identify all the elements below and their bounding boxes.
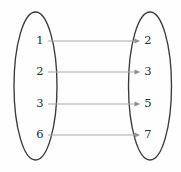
domain-element-1: 1 bbox=[36, 33, 43, 47]
codomain-element-2: 2 bbox=[144, 33, 151, 47]
set-mapping-diagram: 1236 2357 bbox=[0, 0, 181, 172]
codomain-element-7: 7 bbox=[144, 127, 151, 141]
mapping-arrowhead-2-to-3 bbox=[135, 69, 141, 74]
codomain-element-5: 5 bbox=[144, 96, 151, 110]
domain-element-labels: 1236 bbox=[36, 33, 43, 141]
mapping-arrowhead-3-to-5 bbox=[135, 101, 141, 106]
codomain-element-3: 3 bbox=[144, 64, 151, 78]
diagram-canvas: 1236 2357 bbox=[0, 0, 181, 172]
codomain-element-labels: 2357 bbox=[144, 33, 151, 141]
mapping-arrowhead-6-to-7 bbox=[135, 132, 141, 137]
domain-element-6: 6 bbox=[36, 127, 43, 141]
mapping-arrowhead-1-to-2 bbox=[135, 38, 141, 43]
mapping-arrows-group bbox=[48, 38, 140, 137]
domain-element-2: 2 bbox=[36, 64, 43, 78]
domain-element-3: 3 bbox=[36, 96, 43, 110]
